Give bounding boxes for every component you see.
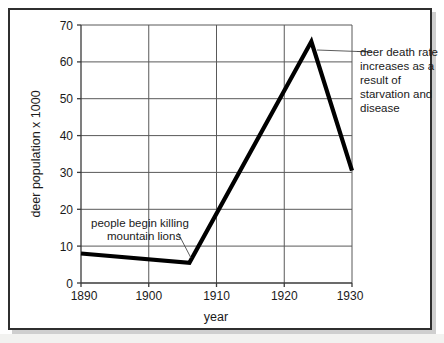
annotation-death-rate-line1: deer death rate <box>360 46 438 58</box>
xtick-label-1930: 1930 <box>337 289 364 303</box>
y-axis-title: deer population x 1000 <box>29 90 43 217</box>
line-chart-svg: 70 60 50 40 30 20 10 0 1890 1900 <box>0 0 444 343</box>
xtick-label-1900: 1900 <box>135 289 162 303</box>
annotation-death-rate-line2: increases as a <box>360 60 435 72</box>
x-tick-labels: 1890 1900 1910 1920 1930 <box>71 289 364 303</box>
xtick-label-1890: 1890 <box>71 289 98 303</box>
chart-figure: 70 60 50 40 30 20 10 0 1890 1900 <box>0 0 444 343</box>
ytick-label-40: 40 <box>60 129 74 143</box>
x-axis-title: year <box>204 310 228 324</box>
xtick-label-1920: 1920 <box>271 289 298 303</box>
ytick-label-20: 20 <box>60 203 74 217</box>
annotation-death-rate-line3: result of <box>360 74 402 86</box>
ytick-label-60: 60 <box>60 55 74 69</box>
ytick-label-70: 70 <box>60 19 74 33</box>
ytick-label-30: 30 <box>60 166 74 180</box>
ytick-label-10: 10 <box>60 240 74 254</box>
y-tick-labels: 70 60 50 40 30 20 10 0 <box>60 19 74 291</box>
annotation-mountain-lions-line1: people begin killing <box>91 217 189 229</box>
annotation-death-rate-line5: disease <box>360 102 400 114</box>
plot-area-wrapper: 70 60 50 40 30 20 10 0 1890 1900 <box>0 0 444 343</box>
annotation-death-rate-line4: starvation and <box>360 88 432 100</box>
annotation-mountain-lions-line2: mountain lions <box>107 230 181 242</box>
xtick-label-1910: 1910 <box>203 289 230 303</box>
annotation-death-rate: deer death rate increases as a result of… <box>317 46 438 114</box>
ytick-label-50: 50 <box>60 92 74 106</box>
annotation-mountain-lions: people begin killing mountain lions <box>91 217 191 258</box>
